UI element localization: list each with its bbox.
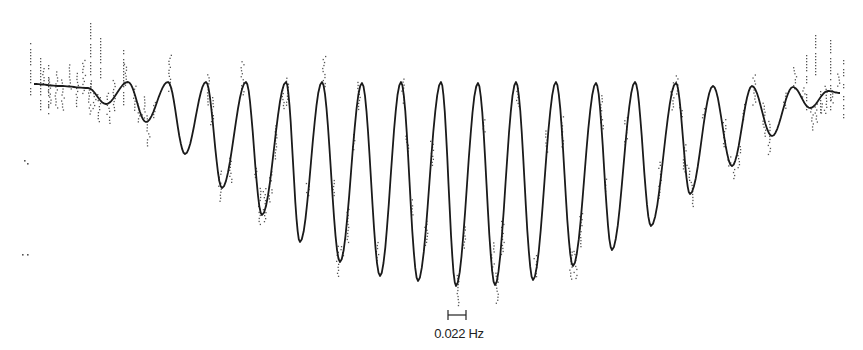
raw-data-dots bbox=[22, 23, 844, 306]
fit-curve bbox=[34, 82, 840, 286]
scale-bar bbox=[448, 310, 466, 320]
scale-bar-label: 0.022 Hz bbox=[424, 326, 494, 341]
spectrum-chart bbox=[0, 0, 863, 350]
